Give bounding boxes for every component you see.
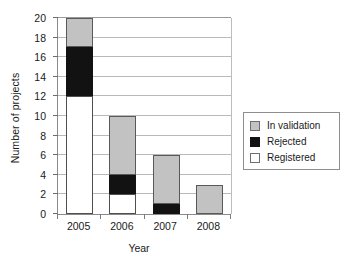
x-axis-tick <box>100 214 101 219</box>
bar-segment-validation <box>153 155 180 204</box>
bar-2008 <box>196 185 223 214</box>
x-axis-tick <box>144 214 145 219</box>
x-axis-tick-label: 2006 <box>99 220 145 233</box>
y-axis-tick: 20 <box>53 17 58 18</box>
y-axis-tick-label: 12 <box>34 90 46 102</box>
legend-label: Registered <box>267 152 315 164</box>
bar-segment-rejected <box>109 175 136 195</box>
y-axis-tick-label: 14 <box>34 71 46 83</box>
bar-segment-validation <box>109 116 136 175</box>
y-axis-tick: 6 <box>53 154 58 155</box>
y-axis-tick-label: 6 <box>40 149 46 161</box>
y-axis-tick-label: 2 <box>40 188 46 200</box>
bar-segment-rejected <box>153 204 180 214</box>
chart-screenshot: Number of projects 02468101214161820 200… <box>0 0 347 265</box>
y-axis-tick: 18 <box>53 37 58 38</box>
y-axis-tick-label: 10 <box>34 110 46 122</box>
x-axis-tick <box>230 214 231 219</box>
x-axis-title: Year <box>48 242 230 255</box>
legend-item: In validation <box>244 118 339 134</box>
y-axis-tick: 10 <box>53 115 58 116</box>
y-axis-tick: 14 <box>53 76 58 77</box>
y-axis-tick-label: 8 <box>40 130 46 142</box>
bar-2006 <box>109 116 136 214</box>
legend-item: Rejected <box>244 134 339 150</box>
bar-2007 <box>153 155 180 214</box>
x-axis-tick-label: 2005 <box>56 220 102 233</box>
y-axis-tick: 16 <box>53 56 58 57</box>
legend-label: Rejected <box>267 136 306 148</box>
x-axis-tick <box>187 214 188 219</box>
legend-swatch-validation <box>250 121 260 131</box>
plot-area: 02468101214161820 <box>57 18 231 215</box>
legend-item: Registered <box>244 150 339 166</box>
bar-segment-registered <box>66 96 93 214</box>
legend-swatch-rejected <box>250 137 260 147</box>
y-axis-tick: 8 <box>53 135 58 136</box>
bar-segment-rejected <box>66 47 93 96</box>
bar-segment-registered <box>109 194 136 214</box>
y-axis-tick: 12 <box>53 95 58 96</box>
y-axis-tick-label: 4 <box>40 169 46 181</box>
legend-swatch-registered <box>250 153 260 163</box>
x-axis-tick-label: 2007 <box>142 220 188 233</box>
y-axis-title: Number of projects <box>6 20 24 216</box>
y-axis-tick-label: 16 <box>34 51 46 63</box>
y-axis-tick: 4 <box>53 174 58 175</box>
bar-2005 <box>66 18 93 214</box>
x-axis-tick <box>57 214 58 219</box>
bar-segment-validation <box>196 185 223 214</box>
x-axis-tick-label: 2008 <box>185 220 231 233</box>
bar-segment-validation <box>66 18 93 47</box>
chart-legend: In validationRejectedRegistered <box>243 112 340 170</box>
legend-label: In validation <box>267 120 320 132</box>
y-axis-tick-label: 20 <box>34 12 46 24</box>
y-axis-tick-label: 0 <box>40 208 46 220</box>
y-axis-tick-label: 18 <box>34 32 46 44</box>
y-axis-tick: 2 <box>53 193 58 194</box>
